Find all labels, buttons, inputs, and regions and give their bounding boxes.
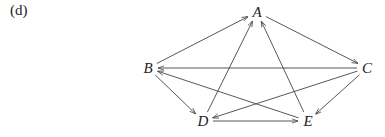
node-b: B bbox=[143, 60, 152, 76]
node-d: D bbox=[197, 113, 209, 129]
edge-c-to-d bbox=[213, 71, 358, 118]
node-a: A bbox=[251, 4, 262, 20]
edges-group bbox=[155, 17, 359, 121]
edge-d-to-a bbox=[207, 21, 252, 112]
edge-b-to-d bbox=[155, 75, 196, 114]
edge-a-to-c bbox=[266, 17, 358, 64]
edge-e-to-a bbox=[261, 21, 304, 112]
nodes-group: ABCDE bbox=[143, 4, 373, 129]
edge-c-to-e bbox=[315, 75, 359, 115]
node-e: E bbox=[302, 113, 312, 129]
node-c: C bbox=[362, 60, 373, 76]
edge-b-to-a bbox=[157, 17, 248, 64]
directed-graph: ABCDE bbox=[0, 0, 385, 137]
edge-e-to-b bbox=[157, 71, 298, 118]
